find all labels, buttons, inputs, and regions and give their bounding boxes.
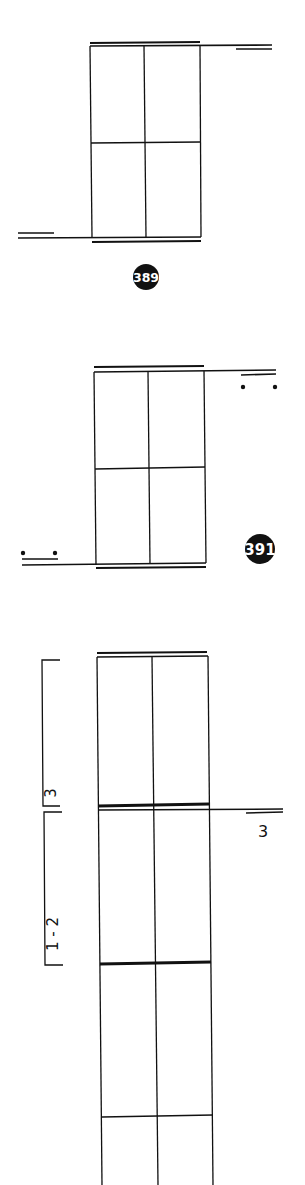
repeat-dot-icon [241, 385, 245, 389]
bracket-line [42, 660, 60, 806]
repeat-barline-thick [98, 804, 209, 806]
bottom-staff-line [18, 237, 201, 238]
grid-middle [152, 657, 158, 1185]
grid-left [97, 657, 102, 1185]
ending-bracket-3: 3 [42, 660, 60, 806]
top-double-line [94, 366, 204, 367]
system-2: 391 [21, 366, 277, 568]
grid-right [200, 45, 201, 237]
top-staff-line [94, 370, 276, 372]
grid-left [90, 46, 92, 238]
grid-row-line [102, 1115, 213, 1117]
badge-391: 391 [244, 534, 275, 564]
bottom-double-line [92, 241, 201, 242]
bottom-staff-line [22, 563, 206, 565]
notation-diagram: 389 391 3 [0, 0, 305, 1185]
badge-label: 389 [133, 270, 159, 285]
thick-barline [100, 962, 211, 964]
top-double-line [90, 42, 200, 43]
grid-mid-row [95, 467, 205, 469]
repeat-dot-icon [21, 551, 25, 555]
badge-389: 389 [133, 264, 159, 290]
side-label: 3 [258, 822, 268, 841]
badge-label: 391 [244, 541, 275, 559]
top-staff-line [97, 656, 208, 657]
system-1: 389 [18, 42, 272, 290]
grid-mid-row [91, 142, 200, 143]
bottom-double-line [96, 567, 206, 568]
side-short-line [246, 812, 283, 813]
system-3: 3 3 1 - 2 [42, 652, 283, 1185]
repeat-barline-thin [98, 809, 283, 810]
ending-bracket-1-2: 1 - 2 [44, 812, 63, 965]
bracket-label: 1 - 2 [44, 917, 62, 951]
repeat-dot-icon [273, 385, 277, 389]
repeat-dot-icon [53, 551, 57, 555]
top-double-line [97, 652, 207, 653]
grid-right [208, 656, 213, 1185]
bracket-label: 3 [42, 788, 60, 798]
top-short-line [241, 374, 276, 375]
top-staff-line [90, 45, 272, 46]
